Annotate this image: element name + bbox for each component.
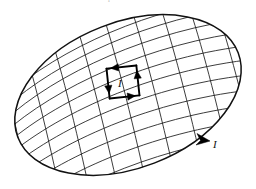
mesh-line-v (213, 0, 254, 148)
loop-edge-right (136, 66, 139, 96)
loop-arrow-right-up (133, 70, 141, 79)
boundary-current-label: I (212, 138, 218, 150)
mesh-line-u (6, 0, 244, 96)
current-loop: I (103, 62, 144, 103)
mesh-line-u (20, 134, 256, 189)
boundary-current: I (196, 134, 218, 151)
loop-arrow-left-down (105, 85, 113, 94)
mesh-line-u (5, 6, 248, 108)
current-loop-mesh-figure: I I (0, 0, 256, 189)
mesh-line-u (14, 119, 256, 189)
loop-arrow-top-left (110, 64, 119, 72)
mesh-line-v (42, 10, 89, 188)
loop-arrow-bottom-right (127, 92, 136, 100)
figure-root: the transfer of the current loop (0, 0, 256, 189)
